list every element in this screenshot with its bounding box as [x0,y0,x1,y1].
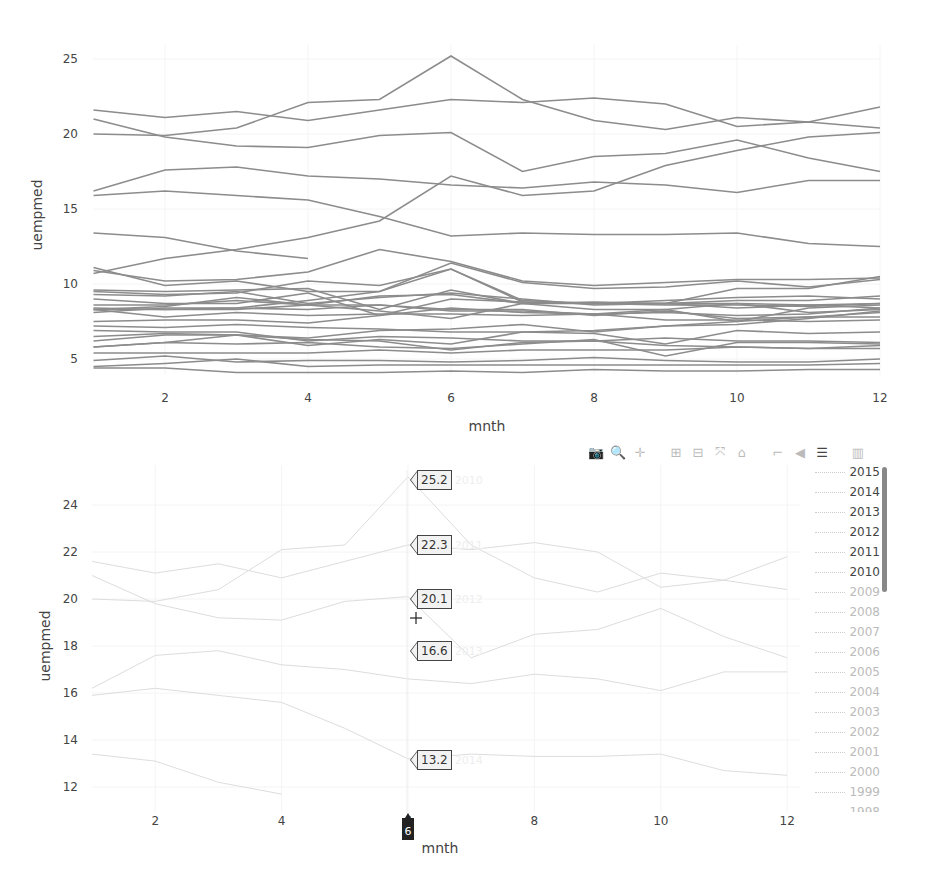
pan-button[interactable]: ✛ [629,441,651,463]
legend-swatch [815,492,845,493]
legend-item-2012[interactable]: 2012 [800,522,890,542]
home-button[interactable]: ⌂ [731,441,753,463]
legend-item-2005[interactable]: 2005 [800,662,890,682]
legend-item-2009[interactable]: 2009 [800,582,890,602]
hover-value: 13.2 [417,750,452,770]
legend-item-2001[interactable]: 2001 [800,742,890,762]
trace-2015 [92,754,282,794]
legend-label: 2011 [849,545,880,559]
legend-swatch [815,652,845,653]
camera-button[interactable]: 📷 [585,441,607,463]
legend-swatch [815,712,845,713]
legend-item-2000[interactable]: 2000 [800,762,890,782]
trace-2014 [94,191,881,247]
legend-item-2014[interactable]: 2014 [800,482,890,502]
legend-label: 2002 [849,725,880,739]
legend-item-2002[interactable]: 2002 [800,722,890,742]
bottom-x-ticks: 24681012 [151,814,794,828]
y-tick-label: 25 [63,52,78,66]
autoscale-icon: ⤧ [715,444,725,460]
x-tick-label: 8 [590,391,598,405]
legend-item-2006[interactable]: 2006 [800,642,890,662]
legend-label: 2003 [849,705,880,719]
modebar-toolbar: 📷🔍✛⊞⊟⤧⌂⌐◀☰▥ [585,440,869,464]
hover-closest-icon: ◀ [795,445,805,460]
y-tick-label: 12 [63,780,78,794]
top-y-ticks: 510152025 [63,52,78,366]
hover-label-2010: 25.22010 [410,470,483,490]
y-tick-label: 15 [63,202,78,216]
legend-label: 2009 [849,585,880,599]
legend-item-1999[interactable]: 1999 [800,782,890,802]
hover-value: 20.1 [417,589,452,609]
legend-swatch [815,572,845,573]
top-traces [94,56,881,373]
hover-pointer [410,536,417,554]
top-chart[interactable]: 510152025 24681012 uempmed mnth [0,0,930,440]
x-tick-label: 2 [151,814,159,828]
hover-pointer [410,471,417,489]
hover-compare-button[interactable]: ☰ [811,441,833,463]
legend-label: 2007 [849,625,880,639]
hover-series-name: 2013 [455,645,483,658]
hover-series-name: 2012 [455,593,483,606]
legend-label: 2012 [849,525,880,539]
legend-swatch [815,792,845,793]
legend-swatch [815,592,845,593]
legend-item-2011[interactable]: 2011 [800,542,890,562]
legend-item-2007[interactable]: 2007 [800,622,890,642]
bottom-y-axis-title: uempmed [37,610,53,681]
x-tick-label: 6 [447,391,455,405]
legend-label: 2005 [849,665,880,679]
zoom-button[interactable]: 🔍 [607,441,629,463]
crosshair-cursor-icon [410,612,422,624]
y-tick-label: 20 [63,592,78,606]
zoom-out-button[interactable]: ⊟ [687,441,709,463]
x-tick-label: 10 [653,814,668,828]
trace-1995 [94,263,881,292]
legend-swatch [815,672,845,673]
top-x-ticks: 24681012 [161,391,887,405]
hover-value: 25.2 [417,470,452,490]
zoom-icon: 🔍 [610,445,626,460]
zoom-in-button[interactable]: ⊞ [665,441,687,463]
legend-item-1998[interactable]: 1998 [800,802,890,812]
plotly-logo-button[interactable]: ▥ [847,441,869,463]
legend-label: 2010 [849,565,880,579]
hover-pointer [410,751,417,769]
hover-label-2014: 13.22014 [410,750,483,770]
x-tick-label: 8 [531,814,539,828]
legend-swatch [815,532,845,533]
legend-item-2004[interactable]: 2004 [800,682,890,702]
autoscale-button[interactable]: ⤧ [709,441,731,463]
bottom-x-axis-title: mnth [422,840,459,856]
legend-item-2010[interactable]: 2010 [800,562,890,582]
legend-item-2008[interactable]: 2008 [800,602,890,622]
legend-swatch [815,812,845,813]
trace-1994 [94,250,881,286]
legend-scrollbar[interactable] [882,467,887,592]
legend-label: 2004 [849,685,880,699]
legend-label: 2001 [849,745,880,759]
y-tick-label: 5 [70,352,78,366]
legend-item-2013[interactable]: 2013 [800,502,890,522]
hover-value: 22.3 [417,535,452,555]
x-tick-label: 12 [872,391,887,405]
legend-item-2015[interactable]: 2015 [800,462,890,482]
spike-lines-icon: ⌐ [773,445,784,460]
legend-swatch [815,512,845,513]
hover-closest-button[interactable]: ◀ [789,441,811,463]
legend-label: 2006 [849,645,880,659]
bottom-chart[interactable]: 12141618202224 24681012 uempmed mnth [0,440,930,895]
camera-icon: 📷 [588,445,604,460]
hover-value: 16.6 [417,641,452,661]
hover-series-name: 2010 [455,474,483,487]
spike-lines-button[interactable]: ⌐ [767,441,789,463]
y-tick-label: 16 [63,686,78,700]
legend-label: 2008 [849,605,880,619]
legend[interactable]: 2015201420132012201120102009200820072006… [800,462,890,812]
y-tick-label: 10 [63,277,78,291]
legend-item-2003[interactable]: 2003 [800,702,890,722]
top-y-axis-title: uempmed [29,179,45,250]
trace-2013 [94,167,881,193]
